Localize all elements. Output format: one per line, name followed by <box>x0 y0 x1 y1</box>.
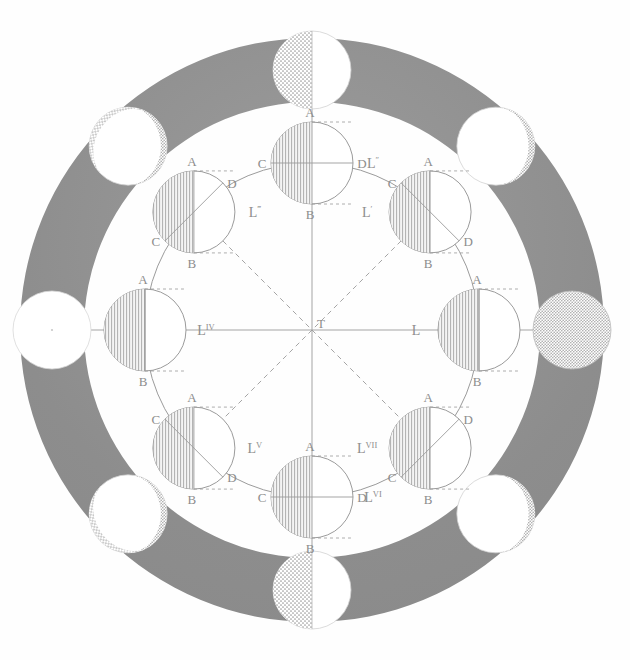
moon-label-L: L <box>412 323 421 338</box>
point-label-B-L1: B <box>424 256 433 271</box>
outer-phase-new <box>13 291 91 369</box>
point-label-D-L7: D <box>463 412 472 427</box>
moon-label-L2: L″ <box>367 155 380 171</box>
point-label-A-L6: A <box>305 439 315 454</box>
outer-phase-waning-gibbous <box>457 475 535 553</box>
point-label-C-L6: C <box>258 490 267 505</box>
phase-disc <box>533 291 611 369</box>
point-label-C-L7: C <box>388 470 397 485</box>
moon-L4 <box>104 289 186 371</box>
point-label-B-L: B <box>473 374 482 389</box>
point-label-C-L3: C <box>152 234 161 249</box>
lunar-phase-diagram: ABLABCDL′ABCDL″ABCDL‴ABLIVABCDLVABCDLVIA… <box>0 0 630 660</box>
center-label-terra: T <box>317 316 325 331</box>
outer-phase-last-quarter <box>273 551 351 629</box>
point-label-C-L1: C <box>388 176 397 191</box>
point-label-B-L5: B <box>188 492 197 507</box>
moon-L7 <box>389 407 471 489</box>
point-label-D-L2: D <box>357 156 366 171</box>
point-label-A-L: A <box>472 272 482 287</box>
moon-L1 <box>389 171 471 253</box>
outer-phase-first-quarter <box>273 31 351 109</box>
point-label-B-L3: B <box>188 256 197 271</box>
point-label-C-L5: C <box>152 412 161 427</box>
moon-label-L1: L′ <box>362 204 373 220</box>
point-label-A-L3: A <box>187 154 197 169</box>
moon-hatched-half <box>438 289 479 371</box>
diagram-canvas: ABLABCDL′ABCDL″ABCDL‴ABLIVABCDLVABCDLVIA… <box>0 0 630 660</box>
point-label-D-L3: D <box>227 176 236 191</box>
moon-L2 <box>271 122 353 204</box>
moon-L3 <box>153 171 235 253</box>
moon-hatched-half <box>104 289 145 371</box>
moon-L <box>438 289 520 371</box>
point-label-C-L2: C <box>258 156 267 171</box>
point-label-B-L4: B <box>139 374 148 389</box>
point-label-D-L1: D <box>463 234 472 249</box>
moon-L5 <box>153 407 235 489</box>
point-label-B-L2: B <box>306 207 315 222</box>
point-label-A-L5: A <box>187 390 197 405</box>
moon-label-L7: LVII <box>357 440 378 456</box>
moon-label-L3: L‴ <box>249 204 262 220</box>
point-label-A-L4: A <box>138 272 148 287</box>
point-label-A-L2: A <box>305 105 315 120</box>
outer-phase-full <box>533 291 611 369</box>
moon-label-L6: LVI <box>364 489 382 505</box>
point-label-A-L1: A <box>423 154 433 169</box>
moon-L6 <box>271 456 353 538</box>
point-label-B-L6: B <box>306 541 315 556</box>
phase-center-dot <box>51 329 53 331</box>
point-label-B-L7: B <box>424 492 433 507</box>
outer-phase-waxing-gibbous <box>457 107 535 185</box>
moon-label-L4: LIV <box>197 322 215 338</box>
point-label-D-L5: D <box>227 470 236 485</box>
point-label-A-L7: A <box>423 390 433 405</box>
moon-label-L5: LV <box>248 440 264 456</box>
